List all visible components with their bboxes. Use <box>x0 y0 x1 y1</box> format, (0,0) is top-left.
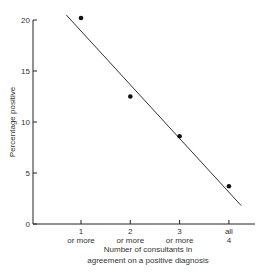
x-tick-label: all <box>225 227 233 236</box>
y-tick-label: 20 <box>21 16 30 25</box>
x-tick-label-sub: or more <box>166 236 194 245</box>
data-point <box>128 94 133 99</box>
x-tick-label: 1 <box>79 227 84 236</box>
y-tick-label: 5 <box>26 169 31 178</box>
y-tick-label: 10 <box>21 118 30 127</box>
data-point <box>227 184 232 189</box>
y-axis-label: Percentage positive <box>8 86 17 157</box>
data-points <box>79 16 232 189</box>
x-axis-label-line2: agreement on a positive diagnosis <box>87 256 208 265</box>
x-tick-label: 2 <box>128 227 133 236</box>
data-point <box>177 134 182 139</box>
x-axis-label-line1: Number of consultants in <box>104 245 193 254</box>
chart: 05101520 1or more2or more3or moreall4 Pe… <box>0 0 265 272</box>
data-point <box>79 16 84 21</box>
axes <box>33 20 255 224</box>
y-tick-label: 0 <box>26 220 31 229</box>
x-tick-label-sub: or more <box>67 236 95 245</box>
y-ticks: 05101520 <box>21 16 37 229</box>
trend-line <box>66 15 241 206</box>
x-tick-label-sub: or more <box>117 236 145 245</box>
x-tick-label-sub: 4 <box>227 236 232 245</box>
x-tick-label: 3 <box>177 227 182 236</box>
y-tick-label: 15 <box>21 67 30 76</box>
